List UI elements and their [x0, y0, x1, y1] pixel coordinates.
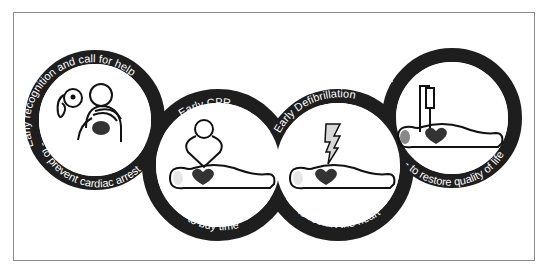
chain-of-survival-diagram: Early recognition and call for help - to… [0, 0, 550, 275]
